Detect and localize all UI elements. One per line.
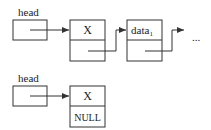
node-data: X [83, 89, 92, 103]
node-subscript: 1 [149, 30, 153, 38]
node-next-null: NULL [74, 112, 101, 123]
node-data1: data1 [127, 20, 162, 61]
node-data: X [83, 23, 92, 37]
head-label: head [18, 6, 39, 18]
svg-text:data1: data1 [131, 24, 153, 38]
top-list: head X data1 ... [13, 6, 200, 61]
node-data: data [131, 24, 149, 36]
bottom-list: head X NULL [13, 72, 105, 127]
head-label: head [18, 72, 39, 84]
node-x-null: X NULL [70, 86, 105, 127]
node-x: X [70, 20, 105, 61]
continuation-ellipsis: ... [192, 31, 201, 43]
linked-list-diagram: head X data1 ... head X NULL [0, 0, 211, 130]
